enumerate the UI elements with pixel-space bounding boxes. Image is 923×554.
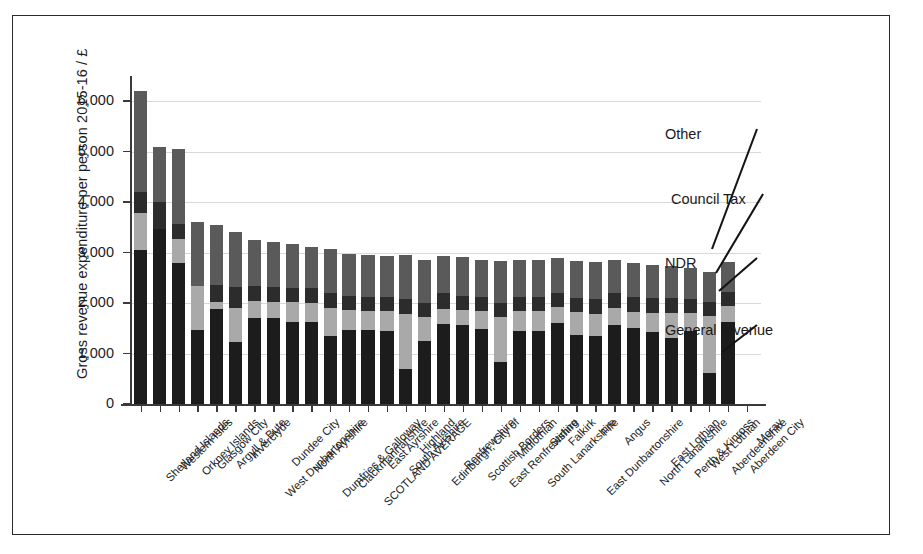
bar-segment-ndr [342, 310, 355, 330]
bar-segment-other [494, 261, 507, 303]
bar-segment-ndr [570, 312, 583, 335]
bar-stack[interactable] [134, 76, 147, 404]
bar-segment-council-tax [627, 297, 640, 312]
x-tick [463, 405, 464, 412]
general-revenue-annotation: General revenue [665, 322, 773, 338]
y-tick-label: 3,000 [24, 244, 114, 260]
bar-segment-ndr [286, 302, 299, 322]
bar-stack[interactable] [380, 76, 393, 404]
bar-stack[interactable] [532, 76, 545, 404]
bar-segment-other [267, 242, 280, 287]
bar-segment-council-tax [475, 297, 488, 311]
bar-stack[interactable] [646, 76, 659, 404]
bar-stack[interactable] [627, 76, 640, 404]
bar-segment-general-revenue [191, 330, 204, 404]
bar-segment-council-tax [646, 298, 659, 313]
bar-stack[interactable] [248, 76, 261, 404]
x-tick [254, 405, 255, 412]
bar-segment-general-revenue [305, 322, 318, 404]
bar-stack[interactable] [418, 76, 431, 404]
x-axis-line [121, 404, 766, 406]
bar-segment-council-tax [172, 224, 185, 239]
bar-segment-other [191, 222, 204, 286]
bar-segment-ndr [646, 313, 659, 332]
bar-segment-council-tax [665, 298, 678, 313]
x-tick [539, 405, 540, 412]
bar-segment-general-revenue [437, 324, 450, 404]
bar-stack[interactable] [551, 76, 564, 404]
bar-segment-general-revenue [589, 336, 602, 404]
x-tick [520, 405, 521, 412]
chart-frame: Gross revenue expenditure per person 201… [12, 15, 890, 535]
bar-segment-general-revenue [703, 373, 716, 404]
bar-stack[interactable] [229, 76, 242, 404]
bar-stack[interactable] [361, 76, 374, 404]
x-tick [197, 405, 198, 412]
y-tick-label: 6,000 [24, 92, 114, 108]
x-tick [141, 405, 142, 412]
bar-stack[interactable] [267, 76, 280, 404]
plot-area: 01,0002,0003,0004,0005,0006,000 Shetland… [121, 76, 751, 404]
bar-segment-council-tax [286, 288, 299, 302]
bar-segment-other [456, 257, 469, 295]
bar-segment-ndr [399, 314, 412, 369]
bar-stack[interactable] [342, 76, 355, 404]
bar-stack[interactable] [456, 76, 469, 404]
bar-stack[interactable] [740, 76, 753, 404]
bar-segment-other [399, 255, 412, 298]
bar-stack[interactable] [570, 76, 583, 404]
bar-stack[interactable] [608, 76, 621, 404]
bar-stack[interactable] [475, 76, 488, 404]
x-tick [690, 405, 691, 412]
bar-segment-general-revenue [172, 263, 185, 404]
bar-segment-other [153, 147, 166, 203]
bar-segment-council-tax [513, 297, 526, 311]
bar-segment-general-revenue [532, 331, 545, 404]
bar-stack[interactable] [172, 76, 185, 404]
bar-segment-general-revenue [665, 338, 678, 404]
bar-segment-general-revenue [380, 331, 393, 404]
bar-stack[interactable] [153, 76, 166, 404]
bar-segment-council-tax [267, 287, 280, 302]
bar-segment-other [380, 256, 393, 297]
bar-stack[interactable] [305, 76, 318, 404]
bar-segment-other [437, 256, 450, 294]
bar-segment-ndr [589, 314, 602, 337]
x-tick [273, 405, 274, 412]
bar-stack[interactable] [513, 76, 526, 404]
bar-segment-ndr [267, 302, 280, 318]
bar-segment-ndr [627, 312, 640, 329]
x-tick [311, 405, 312, 412]
x-tick [368, 405, 369, 412]
bar-segment-other [551, 258, 564, 293]
bar-stack[interactable] [210, 76, 223, 404]
bar-stack[interactable] [324, 76, 337, 404]
bar-segment-council-tax [721, 292, 734, 306]
x-tick [179, 405, 180, 412]
bar-segment-council-tax [608, 293, 621, 307]
x-tick-label: Angus [622, 416, 653, 447]
bar-segment-council-tax [134, 192, 147, 213]
bar-stack[interactable] [589, 76, 602, 404]
bar-stack[interactable] [721, 76, 734, 404]
bar-stack[interactable] [399, 76, 412, 404]
x-tick [444, 405, 445, 412]
x-tick [671, 405, 672, 412]
bar-segment-council-tax [703, 302, 716, 316]
bar-stack[interactable] [191, 76, 204, 404]
bar-segment-council-tax [532, 297, 545, 312]
x-tick [406, 405, 407, 412]
other-annotation: Other [665, 126, 701, 142]
bar-stack[interactable] [703, 76, 716, 404]
bar-segment-general-revenue [248, 318, 261, 404]
bar-segment-ndr [210, 302, 223, 309]
bar-segment-ndr [418, 317, 431, 341]
bar-segment-other [210, 225, 223, 285]
x-tick [482, 405, 483, 412]
bar-stack[interactable] [437, 76, 450, 404]
bar-segment-general-revenue [342, 330, 355, 404]
bar-stack[interactable] [286, 76, 299, 404]
bar-segment-ndr [532, 311, 545, 331]
bar-segment-ndr [380, 311, 393, 331]
bar-stack[interactable] [494, 76, 507, 404]
